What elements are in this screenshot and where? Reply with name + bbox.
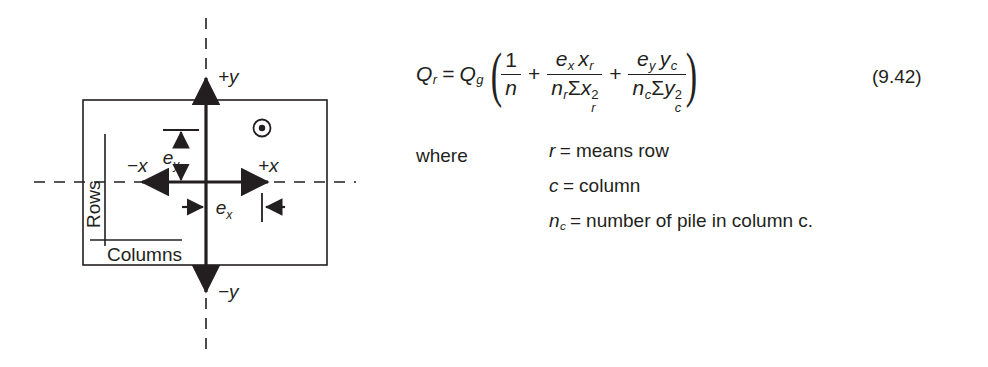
equals-sign: = (437, 62, 459, 86)
term2-numerator: exxr (552, 47, 598, 74)
definition-list: r = means row c = column nc = number of … (549, 141, 813, 246)
definition-text: number of pile in column c. (586, 211, 813, 230)
label-e-y: ey (163, 147, 181, 172)
label-minus-y: −y (218, 281, 240, 302)
where-label: where (416, 145, 468, 167)
left-paren: ( (490, 55, 501, 93)
term-ey-yc: eyyc ncΣyc2 (628, 47, 685, 102)
term1-denominator: n (501, 74, 521, 101)
plus-sign-2: + (604, 62, 626, 86)
definition-item: r = means row (549, 141, 813, 162)
label-rows: Rows (83, 180, 104, 228)
equation-expression: Qr = Qg ( 1 n + exxr nrΣxr2 + (416, 47, 703, 102)
math-panel: Qr = Qg ( 1 n + exxr nrΣxr2 + (408, 0, 988, 367)
plus-sign-1: + (523, 62, 545, 86)
definition-equals: = (563, 176, 574, 195)
term1-numerator: 1 (501, 48, 521, 74)
definition-text: means row (576, 141, 669, 160)
definition-text: column (579, 176, 640, 195)
term2-denominator: nrΣxr2 (547, 74, 602, 102)
definition-symbol: r (549, 141, 556, 162)
definition-symbol: nc (549, 211, 566, 232)
definition-symbol: c (549, 176, 559, 197)
lhs-Q: Qr (416, 62, 437, 88)
definition-item: nc = number of pile in column c. (549, 211, 813, 232)
label-minus-x: −x (127, 155, 149, 176)
term3-numerator: eyyc (633, 47, 681, 74)
term-one-over-n: 1 n (501, 48, 521, 101)
term-ex-xr: exxr nrΣxr2 (547, 47, 602, 102)
label-plus-x: +x (258, 155, 280, 176)
label-columns: Columns (107, 244, 182, 265)
definition-equals: = (570, 211, 581, 230)
figure-panel: +y −y +x −x ey ex Rows Columns (0, 0, 400, 367)
label-plus-y: +y (218, 66, 240, 87)
definition-item: c = column (549, 176, 813, 197)
rhs-factor-Q: Qg (459, 62, 483, 88)
equation-number: (9.42) (872, 66, 922, 88)
term3-denominator: ncΣyc2 (628, 74, 685, 102)
circled-dot-icon (254, 120, 271, 137)
label-e-x: ex (216, 197, 234, 222)
right-paren: ) (685, 55, 696, 93)
definition-equals: = (560, 141, 571, 160)
pile-group-diagram: +y −y +x −x ey ex Rows Columns (0, 0, 400, 367)
equation-9-42: Qr = Qg ( 1 n + exxr nrΣxr2 + (416, 47, 988, 102)
